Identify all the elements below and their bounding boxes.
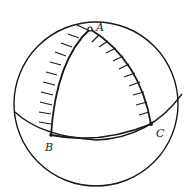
hatches-ac: [92, 35, 149, 115]
side-ab: [51, 29, 90, 135]
label-a: A: [95, 21, 104, 34]
sphere-outline: [14, 22, 178, 186]
label-b: B: [44, 141, 53, 154]
vertex-a: [88, 27, 92, 31]
vertex-b: [49, 133, 53, 137]
label-c: C: [156, 127, 165, 140]
vertex-c: [149, 122, 153, 126]
side-ac: [90, 29, 151, 124]
sphere-diagram: A B C: [0, 0, 191, 195]
